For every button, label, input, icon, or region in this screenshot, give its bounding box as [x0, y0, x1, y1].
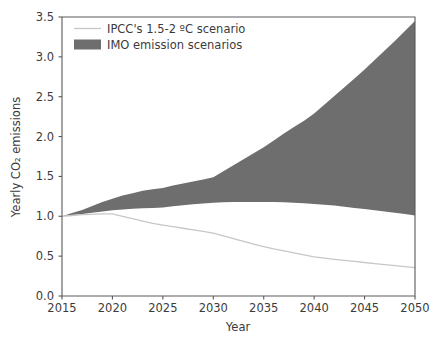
y-tick-label: 3.5 — [36, 10, 54, 24]
y-tick-label: 2.0 — [36, 130, 54, 144]
legend-label-ipcc: IPCC's 1.5-2 ºC scenario — [107, 22, 245, 36]
x-tick-label: 2030 — [199, 301, 228, 315]
y-tick-label: 3.0 — [36, 50, 54, 64]
y-tick-label: 1.0 — [36, 209, 54, 223]
chart-figure: 20152020202520302035204020452050 0.00.51… — [0, 0, 445, 341]
y-tick-label: 1.5 — [36, 169, 54, 183]
legend-label-imo: IMO emission scenarios — [107, 38, 242, 52]
y-tick-label: 2.5 — [36, 90, 54, 104]
y-axis-ticks: 0.00.51.01.52.02.53.03.5 — [36, 10, 62, 303]
x-axis-ticks: 20152020202520302035204020452050 — [47, 296, 429, 315]
x-tick-label: 2020 — [98, 301, 127, 315]
x-tick-label: 2045 — [350, 301, 379, 315]
x-tick-label: 2035 — [249, 301, 278, 315]
legend-patch-marker — [74, 40, 101, 50]
x-tick-label: 2025 — [148, 301, 177, 315]
x-tick-label: 2040 — [300, 301, 329, 315]
x-tick-label: 2050 — [400, 301, 429, 315]
x-axis-title: Year — [225, 320, 251, 334]
x-tick-label: 2015 — [47, 301, 76, 315]
y-tick-label: 0.0 — [36, 289, 54, 303]
y-tick-label: 0.5 — [36, 249, 54, 263]
y-axis-title: Yearly CO₂ emissions — [9, 97, 23, 218]
chart-canvas: 20152020202520302035204020452050 0.00.51… — [0, 0, 445, 341]
